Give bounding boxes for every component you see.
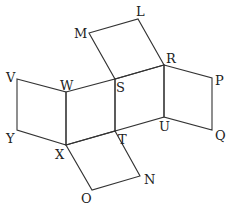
label-y: Y <box>5 131 15 146</box>
label-m: M <box>74 26 87 41</box>
label-s: S <box>116 80 125 95</box>
label-v: V <box>5 70 16 85</box>
face-mlrs <box>89 19 164 79</box>
face-vwxy <box>17 79 66 145</box>
net-diagram: M L R S V W X Y T U P Q O N <box>0 0 229 205</box>
face-srut <box>115 65 164 131</box>
faces <box>17 19 212 190</box>
label-o: O <box>81 191 92 205</box>
label-l: L <box>136 4 145 19</box>
label-u: U <box>159 119 170 134</box>
label-t: T <box>118 132 127 147</box>
label-n: N <box>144 172 155 187</box>
label-q: Q <box>215 128 226 143</box>
net-diagram-svg: M L R S V W X Y T U P Q O N <box>0 0 229 205</box>
label-x: X <box>55 147 65 162</box>
label-p: P <box>215 73 224 88</box>
label-r: R <box>166 51 177 66</box>
face-xtno <box>66 131 140 190</box>
label-w: W <box>60 78 74 93</box>
face-rpqu <box>164 65 212 130</box>
